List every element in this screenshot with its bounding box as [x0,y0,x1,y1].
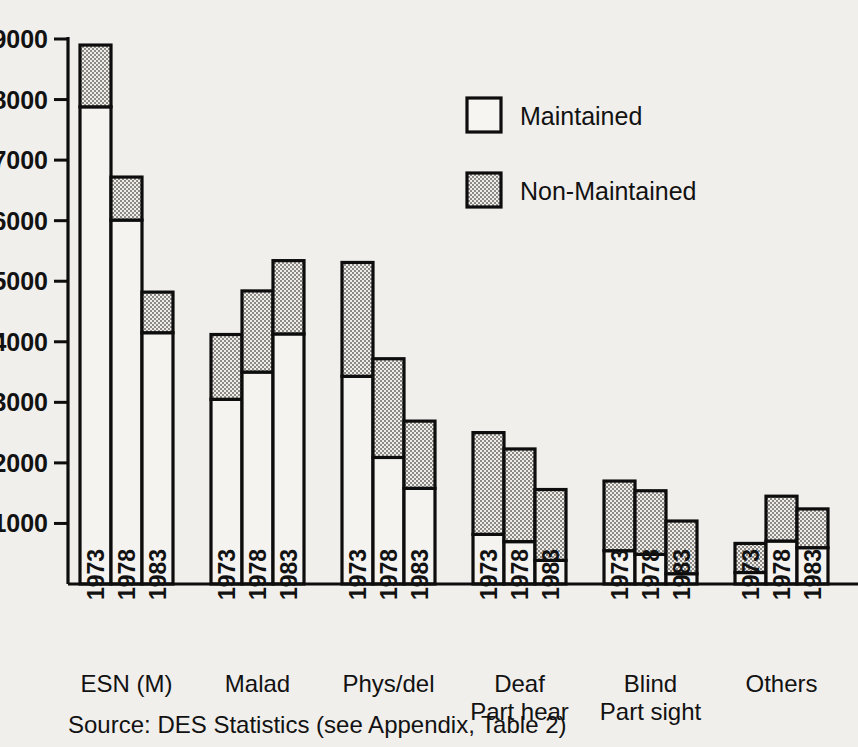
year-tick-label: 1973 [214,549,240,600]
year-tick-label: 1978 [376,549,402,600]
y-tick-label: 4000 [0,328,48,356]
year-tick-label: 1978 [638,549,664,600]
bar-stack [80,45,111,584]
year-tick-label: 1983 [407,549,433,600]
y-tick-label: 2000 [0,449,48,477]
legend-label-non-maintained: Non-Maintained [520,177,697,205]
year-tick-label: 1973 [476,549,502,600]
bar-stack [242,291,273,584]
year-tick-label: 1973 [83,549,109,600]
y-tick-label: 1000 [0,509,48,537]
bar-stack [342,262,373,584]
bar-segment-non-maintained [111,177,142,220]
bar-stack [211,335,242,584]
category-label: ESN (M) [81,670,173,697]
bar-segment-non-maintained [766,496,797,541]
y-tick-label: 7000 [0,146,48,174]
y-tick-label: 6000 [0,207,48,235]
bar-segment-non-maintained [80,45,111,107]
y-tick-label: 9000 [0,25,48,53]
category-sublabel: Part sight [600,698,702,725]
year-tick-label: 1983 [669,549,695,600]
category-label: Blind [624,670,677,697]
year-tick-label: 1983 [538,549,564,600]
year-tick-label: 1978 [507,549,533,600]
bar-segment-non-maintained [797,509,828,548]
bar-segment-non-maintained [142,292,173,333]
year-tick-label: 1973 [607,549,633,600]
year-tick-label: 1973 [738,549,764,600]
y-tick-label: 5000 [0,267,48,295]
y-tick-label: 3000 [0,388,48,416]
year-tick-label: 1983 [800,549,826,600]
year-tick-label: 1983 [145,549,171,600]
bar-segment-maintained [111,220,142,584]
year-tick-label: 1978 [245,549,271,600]
bar-segment-non-maintained [342,262,373,376]
bar-segment-non-maintained [242,291,273,372]
bar-chart: 100020003000400050006000700080009000 197… [0,0,858,747]
bar-segment-maintained [273,334,304,584]
category-label: Deaf [494,670,545,697]
category-label: Phys/del [342,670,434,697]
y-tick-label: 8000 [0,86,48,114]
chart-container: 100020003000400050006000700080009000 197… [0,0,858,747]
bar-stack [111,177,142,584]
source-note: Source: DES Statistics (see Appendix, Ta… [68,711,566,738]
category-label: Malad [225,670,290,697]
year-tick-label: 1983 [276,549,302,600]
bar-segment-non-maintained [373,359,404,458]
bar-segment-non-maintained [211,335,242,400]
bar-segment-non-maintained [273,261,304,334]
bar-segment-non-maintained [504,449,535,542]
bar-segment-non-maintained [404,421,435,488]
bar-stack [273,261,304,584]
bar-segment-maintained [142,333,173,584]
category-label: Others [745,670,817,697]
bar-segment-maintained [80,107,111,584]
bar-segment-non-maintained [635,491,666,555]
legend-swatch-non-maintained [467,173,501,207]
legend-label-maintained: Maintained [520,102,642,130]
year-tick-label: 1973 [345,549,371,600]
legend-swatch-maintained [467,98,501,132]
bar-stack [142,292,173,584]
year-tick-label: 1978 [769,549,795,600]
bar-segment-non-maintained [604,481,635,551]
year-tick-label: 1978 [114,549,140,600]
bar-segment-non-maintained [473,433,504,535]
